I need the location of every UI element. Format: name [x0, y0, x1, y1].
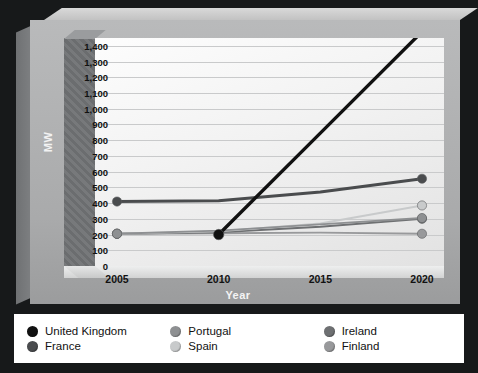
y-axis-tick-label: 1,000: [84, 103, 108, 114]
x-axis-title: Year: [16, 289, 460, 301]
y-axis-tick-label: 0: [103, 261, 108, 272]
data-point-marker: [417, 174, 426, 183]
y-axis-title: MW: [42, 132, 54, 153]
y-axis-tick-label: 1,100: [84, 88, 108, 99]
chart-legend: United KingdomFrancePortugalSpainIreland…: [14, 314, 464, 363]
legend-label: Ireland: [342, 325, 377, 337]
y-axis-tick-label: 900: [92, 119, 108, 130]
series-layer: [95, 38, 444, 266]
legend-item[interactable]: Finland: [324, 340, 463, 352]
x-axis-tick-label: 2010: [207, 273, 230, 285]
legend-marker-icon: [170, 326, 181, 337]
series-line: [117, 218, 422, 234]
data-point-marker: [112, 197, 121, 206]
y-axis-tick-label: 200: [92, 229, 108, 240]
y-axis-tick-label: 400: [92, 198, 108, 209]
legend-item[interactable]: France: [27, 340, 166, 352]
legend-marker-icon: [324, 326, 335, 337]
series-line: [219, 38, 422, 235]
data-point-marker: [417, 213, 426, 222]
legend-marker-icon: [27, 341, 38, 352]
y-axis-tick-label: 300: [92, 213, 108, 224]
chart-3d-top-face: [44, 8, 478, 20]
plot-area: [95, 38, 444, 266]
y-axis-tick-label: 700: [92, 150, 108, 161]
chart-container: MW 1,4001,3001,2001,1001,000900800700600…: [16, 8, 460, 304]
x-axis-tick-label: 2005: [105, 273, 128, 285]
y-axis-tick-label: 100: [92, 245, 108, 256]
x-axis-tick-label: 2015: [309, 273, 332, 285]
data-point-marker: [112, 229, 121, 238]
legend-item[interactable]: Spain: [170, 340, 309, 352]
legend-marker-icon: [324, 341, 335, 352]
legend-label: Portugal: [188, 325, 231, 337]
y-axis-tick-labels: 1,4001,3001,2001,1001,000900800700600500…: [62, 38, 108, 266]
legend-label: Finland: [342, 340, 380, 352]
y-axis-tick-label: 600: [92, 166, 108, 177]
x-axis-tick-label: 2020: [410, 273, 433, 285]
legend-column: IrelandFinland: [310, 325, 463, 352]
legend-marker-icon: [27, 326, 38, 337]
data-point-marker: [213, 229, 223, 239]
legend-column: United KingdomFrance: [15, 325, 166, 352]
y-axis-tick-label: 800: [92, 135, 108, 146]
data-point-marker: [417, 229, 426, 238]
data-point-marker: [417, 201, 426, 210]
legend-label: United Kingdom: [45, 325, 127, 337]
legend-column: PortugalSpain: [166, 325, 309, 352]
legend-item[interactable]: Portugal: [170, 325, 309, 337]
legend-label: Spain: [188, 340, 217, 352]
x-axis-tick-labels: 2005201020152020: [64, 273, 444, 289]
y-axis-tick-label: 1,200: [84, 72, 108, 83]
legend-label: France: [45, 340, 81, 352]
legend-item[interactable]: Ireland: [324, 325, 463, 337]
y-axis-tick-label: 1,300: [84, 56, 108, 67]
legend-marker-icon: [170, 341, 181, 352]
y-axis-tick-label: 500: [92, 182, 108, 193]
y-axis-tick-label: 1,400: [84, 40, 108, 51]
legend-item[interactable]: United Kingdom: [27, 325, 166, 337]
plot-wrapper: 1,4001,3001,2001,1001,000900800700600500…: [64, 28, 444, 278]
